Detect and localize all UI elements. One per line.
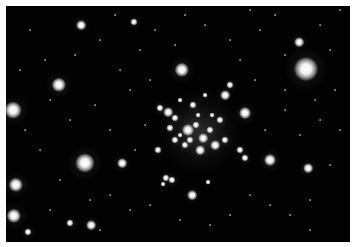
- faint-star: [309, 199, 311, 201]
- faint-star: [309, 229, 311, 231]
- faint-star: [149, 79, 151, 81]
- faint-star: [284, 89, 286, 91]
- cluster-star: [210, 113, 215, 118]
- faint-star: [319, 24, 321, 26]
- faint-star: [44, 59, 46, 61]
- bright-star: [264, 154, 276, 166]
- faint-star: [129, 209, 131, 211]
- cluster-star: [178, 98, 183, 103]
- faint-star: [139, 49, 141, 51]
- faint-star: [49, 209, 51, 211]
- faint-star: [74, 54, 76, 56]
- bright-star: [187, 190, 197, 200]
- faint-star: [284, 109, 286, 111]
- faint-star: [184, 14, 186, 16]
- faint-star: [134, 149, 136, 151]
- faint-star: [339, 129, 341, 131]
- faint-star: [154, 29, 156, 31]
- bright-star: [239, 107, 251, 119]
- faint-star: [94, 104, 96, 106]
- cluster-star: [161, 182, 166, 187]
- bright-star: [6, 102, 21, 119]
- faint-star: [299, 134, 301, 136]
- faint-star: [229, 39, 231, 41]
- cluster-star: [203, 93, 208, 98]
- faint-star: [129, 89, 131, 91]
- faint-star: [109, 194, 111, 196]
- faint-star: [259, 29, 261, 31]
- faint-star: [29, 29, 31, 31]
- faint-star: [254, 79, 256, 81]
- faint-star: [149, 204, 151, 206]
- bright-star: [303, 163, 313, 173]
- faint-star: [239, 59, 241, 61]
- faint-star: [274, 14, 276, 16]
- bright-star: [86, 220, 96, 230]
- faint-star: [144, 124, 146, 126]
- faint-star: [329, 49, 331, 51]
- faint-star: [229, 214, 231, 216]
- faint-star: [314, 99, 316, 101]
- faint-star: [179, 219, 181, 221]
- bright-star: [117, 158, 127, 168]
- cluster-star: [178, 133, 183, 138]
- faint-star: [109, 129, 111, 131]
- faint-star: [174, 44, 176, 46]
- faint-star: [334, 89, 336, 91]
- faint-star: [69, 119, 71, 121]
- cluster-star: [195, 145, 205, 155]
- faint-star: [264, 129, 266, 131]
- faint-star: [339, 9, 341, 11]
- cluster-star: [206, 180, 211, 185]
- faint-star: [24, 129, 26, 131]
- faint-star: [284, 54, 286, 56]
- faint-star: [99, 229, 101, 231]
- bright-star: [76, 20, 86, 30]
- faint-star: [209, 224, 211, 226]
- faint-star: [249, 9, 251, 11]
- faint-star: [119, 69, 121, 71]
- star-cluster-photo: [6, 6, 350, 242]
- faint-star: [89, 199, 91, 201]
- faint-star: [269, 204, 271, 206]
- bright-star: [294, 57, 318, 81]
- faint-star: [59, 179, 61, 181]
- faint-star: [289, 214, 291, 216]
- faint-star: [249, 194, 251, 196]
- faint-star: [204, 24, 206, 26]
- faint-star: [99, 39, 101, 41]
- bright-star: [294, 37, 304, 47]
- faint-star: [114, 14, 116, 16]
- faint-star: [49, 99, 51, 101]
- cluster-star: [196, 113, 201, 118]
- faint-star: [19, 69, 21, 71]
- faint-star: [319, 119, 321, 121]
- faint-star: [39, 149, 41, 151]
- faint-star: [329, 164, 331, 166]
